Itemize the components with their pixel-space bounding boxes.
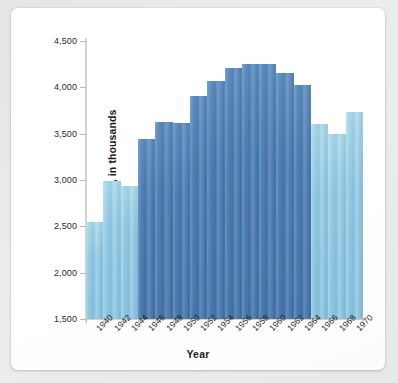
- bar-fill: [155, 122, 172, 319]
- plot-area: 1,5002,0002,5003,0003,5004,0004,500 1940…: [86, 41, 363, 319]
- bar-fill: [294, 85, 311, 319]
- bar-fill: [86, 222, 103, 319]
- bar-1966: [311, 124, 328, 319]
- x-tick-mark: [346, 319, 347, 324]
- bar-1958: [242, 64, 259, 319]
- y-tick-label: 2,500: [54, 221, 77, 231]
- x-tick-mark: [121, 319, 122, 324]
- bar-fill: [121, 186, 138, 319]
- bar-fill: [190, 96, 207, 319]
- x-tick-mark: [103, 319, 104, 324]
- bar-1942: [103, 181, 120, 319]
- y-tick-label: 4,000: [54, 82, 77, 92]
- bar-1950: [173, 123, 190, 319]
- y-tick-label: 4,500: [54, 36, 77, 46]
- x-tick-mark: [155, 319, 156, 324]
- bar-1964: [294, 85, 311, 319]
- y-tick-label: 2,000: [54, 268, 77, 278]
- y-tick-label: 1,500: [54, 314, 77, 324]
- x-axis-title: Year: [11, 348, 385, 360]
- x-tick-mark: [86, 319, 87, 324]
- x-tick-mark: [190, 319, 191, 324]
- bar-fill: [328, 134, 345, 319]
- bar-1948: [155, 122, 172, 319]
- x-tick-mark: [276, 319, 277, 324]
- y-tick-label: 3,000: [54, 175, 77, 185]
- bar-1944: [121, 186, 138, 319]
- bar-1956: [225, 68, 242, 319]
- bar-1946: [138, 139, 155, 319]
- bar-fill: [242, 64, 259, 319]
- y-tick-mark: [80, 134, 86, 135]
- y-tick-mark: [80, 41, 86, 42]
- x-tick-mark: [225, 319, 226, 324]
- bar-fill: [346, 112, 363, 319]
- x-tick-mark: [259, 319, 260, 324]
- bar-fill: [103, 181, 120, 319]
- bar-1962: [276, 73, 293, 319]
- x-tick-mark: [311, 319, 312, 324]
- bar-fill: [173, 123, 190, 319]
- bar-1940: [86, 222, 103, 319]
- x-tick-mark: [173, 319, 174, 324]
- y-tick-mark: [80, 180, 86, 181]
- bar-fill: [225, 68, 242, 319]
- chart-page: Number of births, in thousands 1,5002,00…: [0, 0, 398, 383]
- bar-1960: [259, 64, 276, 319]
- bar-1968: [328, 134, 345, 319]
- x-tick-mark: [138, 319, 139, 324]
- bar-fill: [311, 124, 328, 319]
- bar-1970: [346, 112, 363, 319]
- x-tick-mark: [207, 319, 208, 324]
- bar-fill: [207, 81, 224, 319]
- bar-fill: [138, 139, 155, 319]
- y-tick-mark: [80, 87, 86, 88]
- x-tick-mark: [242, 319, 243, 324]
- x-tick-mark: [328, 319, 329, 324]
- y-tick-label: 3,500: [54, 129, 77, 139]
- chart-card: Number of births, in thousands 1,5002,00…: [11, 8, 385, 370]
- bar-1952: [190, 96, 207, 319]
- bar-1954: [207, 81, 224, 319]
- bar-fill: [276, 73, 293, 319]
- bar-fill: [259, 64, 276, 319]
- x-tick-mark: [294, 319, 295, 324]
